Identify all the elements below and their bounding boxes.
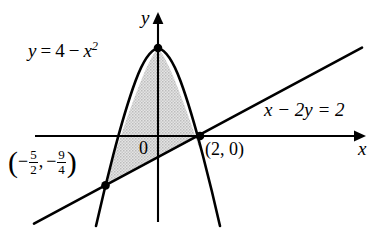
- label-point-lower-left: (−52,−94): [8, 148, 77, 178]
- y-numerator: 9: [57, 148, 66, 162]
- shaded-region: [106, 48, 201, 185]
- parabola-exponent: 2: [92, 39, 98, 53]
- y-fraction: 94: [57, 148, 66, 176]
- parabola-variable: x: [83, 40, 91, 61]
- point-lower-left-dot: [101, 181, 110, 190]
- x-sign: −: [18, 151, 28, 171]
- fraction-comma: ,: [39, 151, 44, 171]
- point-x-intercept-dot: [196, 132, 205, 141]
- label-axis-y: y: [141, 8, 149, 27]
- label-point-x-intercept: (2, 0): [205, 140, 244, 158]
- parabola-constant: 4: [55, 40, 65, 61]
- y-sign: −: [46, 151, 56, 171]
- label-parabola-equation: y=4−x2: [28, 40, 98, 60]
- label-line-equation: x − 2y = 2: [264, 100, 345, 119]
- y-axis-arrowhead: [153, 12, 164, 24]
- y-denominator: 4: [57, 162, 66, 177]
- parabola-lhs: y: [28, 40, 36, 61]
- parabola-minus: −: [69, 40, 80, 61]
- x-denominator: 2: [29, 162, 38, 177]
- point-vertex-dot: [154, 44, 163, 53]
- open-paren: (: [8, 145, 18, 178]
- close-paren: ): [67, 145, 77, 178]
- math-figure: y=4−x2 x − 2y = 2 0 (2, 0) (−52,−94) y x: [0, 0, 384, 238]
- label-axis-x: x: [358, 139, 366, 158]
- x-fraction: 52: [29, 148, 38, 176]
- x-numerator: 5: [29, 148, 38, 162]
- parabola-equals: =: [40, 40, 51, 61]
- label-origin: 0: [139, 139, 148, 157]
